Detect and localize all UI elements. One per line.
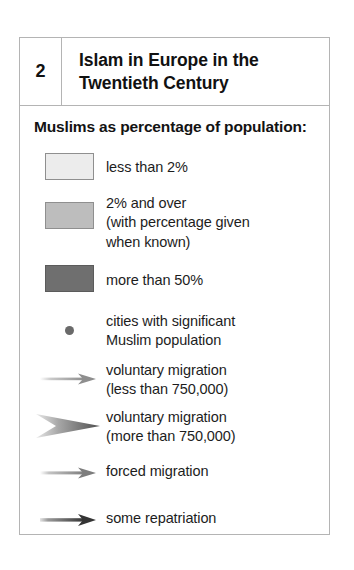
legend-label-less-than-2: less than 2% xyxy=(106,144,319,177)
legend-title-text: Islam in Europe in the Twentieth Century xyxy=(79,49,319,93)
legend-symbol-cell xyxy=(32,309,106,353)
city-dot-icon xyxy=(65,326,74,335)
legend-symbol-cell xyxy=(32,452,106,494)
legend-title: Islam in Europe in the Twentieth Century xyxy=(62,38,329,105)
legend-label-more-than-50: more than 50% xyxy=(106,257,319,290)
swatch-dark-icon xyxy=(45,265,94,292)
legend-number: 2 xyxy=(20,38,62,105)
legend-item-some-repatriation: some repatriation xyxy=(32,499,319,541)
swatch-mid-icon xyxy=(45,202,94,229)
legend-item-forced-migration: forced migration xyxy=(32,452,319,494)
legend-body: Muslims as percentage of population: les… xyxy=(20,106,329,541)
arrow-thick-icon xyxy=(34,410,104,442)
legend-symbol-cell xyxy=(32,499,106,541)
legend-label-cities: cities with significant Muslim populatio… xyxy=(106,309,319,351)
spacer xyxy=(32,301,319,309)
legend-header: 2 Islam in Europe in the Twentieth Centu… xyxy=(20,38,329,106)
legend-label-voluntary-small: voluntary migration (less than 750,000) xyxy=(106,358,319,400)
legend-symbol-cell xyxy=(32,257,106,301)
legend-item-voluntary-small: voluntary migration (less than 750,000) xyxy=(32,358,319,400)
legend-number-value: 2 xyxy=(35,61,45,82)
arrow-thin-icon xyxy=(38,367,100,391)
legend-symbol-cell xyxy=(32,358,106,400)
legend-label-2-and-over: 2% and over (with percentage given when … xyxy=(106,193,319,252)
legend-item-voluntary-large: voluntary migration (more than 750,000) xyxy=(32,405,319,447)
legend-subtitle: Muslims as percentage of population: xyxy=(34,118,319,136)
legend-entry-list: less than 2% 2% and over (with percentag… xyxy=(32,144,319,541)
legend-label-some-repatriation: some repatriation xyxy=(106,499,319,528)
legend-label-voluntary-large: voluntary migration (more than 750,000) xyxy=(106,405,319,447)
legend-item-cities: cities with significant Muslim populatio… xyxy=(32,309,319,353)
legend-item-more-than-50: more than 50% xyxy=(32,257,319,301)
legend-symbol-cell xyxy=(32,405,106,447)
arrow-repatriation-icon xyxy=(38,510,100,530)
arrow-forced-icon xyxy=(38,463,100,483)
legend-symbol-cell xyxy=(32,144,106,188)
legend-symbol-cell xyxy=(32,193,106,237)
legend-item-2-and-over: 2% and over (with percentage given when … xyxy=(32,193,319,252)
legend-item-less-than-2: less than 2% xyxy=(32,144,319,188)
legend-label-forced-migration: forced migration xyxy=(106,452,319,481)
map-legend-card: 2 Islam in Europe in the Twentieth Centu… xyxy=(19,37,330,535)
swatch-light-icon xyxy=(45,153,94,180)
